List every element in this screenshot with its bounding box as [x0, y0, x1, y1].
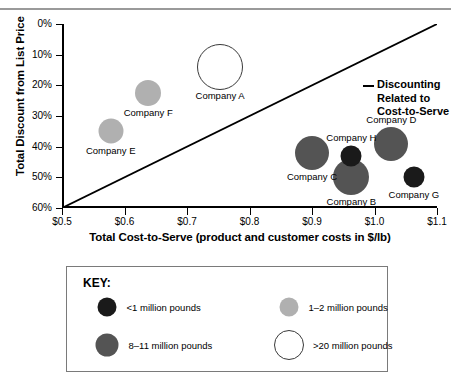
bubble-company-a[interactable] — [197, 44, 243, 90]
annotation-line: Related to — [377, 92, 449, 106]
annotation-leader-dash — [363, 85, 374, 87]
x-tick-mark — [312, 208, 313, 215]
x-tick-label: $1.0 — [355, 217, 395, 227]
y-axis-title: Total Discount from List Price — [14, 16, 26, 176]
bubble-company-f[interactable] — [135, 80, 161, 106]
legend-label-1: 1–2 million pounds — [309, 302, 388, 313]
x-tick-mark — [437, 208, 438, 215]
legend-title: KEY: — [83, 276, 111, 290]
x-tick-mark — [187, 208, 188, 215]
bubble-label-company-c: Company C — [287, 172, 337, 182]
y-tick-label: 20% — [18, 80, 52, 90]
legend-label-0: <1 million pounds — [127, 302, 201, 313]
x-tick-label: $0.5 — [42, 217, 82, 227]
bubble-chart: Total Discount from List Price 0%10%20%3… — [0, 12, 451, 242]
bubble-company-d[interactable] — [374, 127, 408, 161]
x-tick-mark — [62, 208, 63, 215]
legend-label-3: >20 million pounds — [313, 340, 392, 351]
x-tick-label: $0.9 — [292, 217, 332, 227]
annotation-line: Cost-to-Serve — [377, 105, 449, 119]
top-divider-rule — [0, 8, 451, 10]
bubble-company-h[interactable] — [341, 145, 362, 166]
x-tick-label: $1.1 — [417, 217, 451, 227]
x-tick-mark — [250, 208, 251, 215]
y-tick-label: 40% — [18, 142, 52, 152]
bubble-label-company-h: Company H — [326, 133, 376, 143]
x-tick-label: $0.7 — [167, 217, 207, 227]
bubble-label-company-f: Company F — [124, 108, 173, 118]
annotation-line: Discounting — [377, 78, 449, 92]
bubble-company-c[interactable] — [295, 136, 329, 170]
bubble-label-company-e: Company E — [86, 146, 136, 156]
x-tick-label: $0.6 — [105, 217, 145, 227]
y-tick-label: 10% — [18, 50, 52, 60]
legend-swatch-2 — [96, 334, 119, 357]
bubble-label-company-b: Company B — [327, 197, 377, 207]
x-tick-mark — [375, 208, 376, 215]
bubble-company-e[interactable] — [98, 119, 123, 144]
y-tick-label: 60% — [18, 203, 52, 213]
y-tick-label: 30% — [18, 111, 52, 121]
chart-legend: KEY: <1 million pounds1–2 million pounds… — [66, 266, 388, 372]
bubble-company-g[interactable] — [403, 167, 424, 188]
y-tick-label: 0% — [18, 19, 52, 29]
x-axis-title: Total Cost-to-Serve (product and custome… — [40, 231, 440, 243]
x-tick-label: $0.8 — [230, 217, 270, 227]
y-tick-label: 50% — [18, 172, 52, 182]
legend-swatch-1 — [280, 298, 299, 317]
legend-swatch-0 — [98, 298, 117, 317]
legend-label-2: 8–11 million pounds — [129, 340, 213, 351]
bubble-label-company-a: Company A — [196, 91, 245, 101]
legend-swatch-3 — [274, 330, 304, 360]
trend-line-annotation: DiscountingRelated toCost-to-Serve — [377, 78, 449, 119]
x-tick-mark — [125, 208, 126, 215]
bubble-label-company-g: Company G — [389, 190, 440, 200]
